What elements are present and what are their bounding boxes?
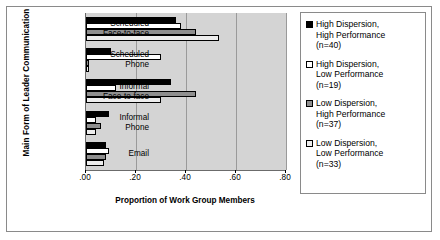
category-label-line: Face-to-face (29, 92, 149, 102)
x-tick-label: .80 (279, 173, 290, 182)
legend-label: High Dispersion, Low Performance (n=19) (316, 59, 383, 91)
x-tick-label: .20 (129, 173, 140, 182)
legend-swatch-icon (306, 21, 313, 28)
category-label-line: Informal (29, 113, 149, 123)
category-label: ScheduledFace-to-face (29, 19, 149, 39)
legend: High Dispersion, High Performance (n=40)… (300, 12, 426, 194)
category-label-line: Phone (29, 60, 149, 70)
legend-label: High Dispersion, High Performance (n=40) (316, 19, 385, 51)
x-axis-title: Proportion of Work Group Members (85, 196, 285, 205)
x-tick-label: .60 (229, 173, 240, 182)
legend-label: Low Dispersion, Low Performance (n=33) (316, 138, 383, 170)
category-label-line: Phone (29, 123, 149, 133)
legend-swatch-icon (306, 100, 313, 107)
legend-swatch-icon (306, 61, 313, 68)
category-label: InformalPhone (29, 113, 149, 133)
gridline (286, 13, 287, 170)
legend-item[interactable]: High Dispersion, Low Performance (n=19) (306, 59, 421, 91)
legend-item[interactable]: Low Dispersion, Low Performance (n=33) (306, 138, 421, 170)
category-label: ScheduledPhone (29, 50, 149, 70)
category-label-line: Face-to-face (29, 29, 149, 39)
x-tick-label: .40 (179, 173, 190, 182)
chart-figure: Main Form of Leader Communication Propor… (0, 0, 440, 240)
category-label: Email (29, 149, 149, 159)
legend-label: Low Dispersion, High Performance (n=37) (316, 98, 385, 130)
category-label: InformalFace-to-face (29, 82, 149, 102)
category-label-line: Informal (29, 82, 149, 92)
legend-item[interactable]: Low Dispersion, High Performance (n=37) (306, 98, 421, 130)
category-label-line: Email (29, 149, 149, 159)
x-tick-label: .00 (79, 173, 90, 182)
bar (86, 160, 104, 166)
category-label-line: Scheduled (29, 50, 149, 60)
legend-swatch-icon (306, 140, 313, 147)
category-label-line: Scheduled (29, 19, 149, 29)
legend-item[interactable]: High Dispersion, High Performance (n=40) (306, 19, 421, 51)
